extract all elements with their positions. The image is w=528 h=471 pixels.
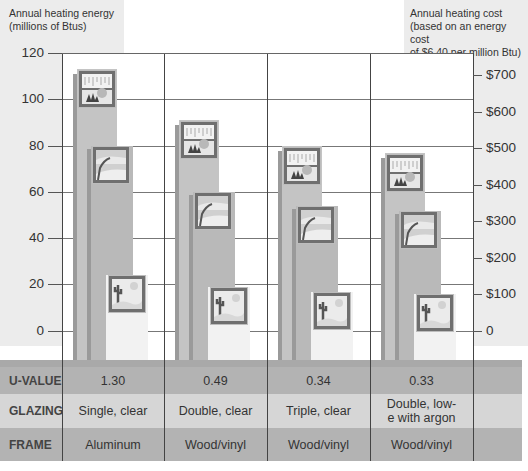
right-tick-label: $500 bbox=[486, 140, 516, 155]
right-tick-label: $400 bbox=[486, 177, 516, 192]
right-tick-mark bbox=[473, 294, 482, 295]
left-axis-title-line2: (millions of Btus) bbox=[9, 20, 114, 33]
table-cell: Double, low-e with argon bbox=[370, 394, 473, 428]
table-row-glazing: GLAZING Single, clear Double, clear Trip… bbox=[0, 394, 522, 428]
snow-window-icon bbox=[79, 71, 115, 107]
right-tick-label: $600 bbox=[486, 104, 516, 119]
right-tick-mark bbox=[473, 221, 482, 222]
table-cell: 0.34 bbox=[267, 367, 370, 394]
table-cell: Double, clear bbox=[164, 394, 267, 428]
table-cell: 0.49 bbox=[164, 367, 267, 394]
right-tick-label: $100 bbox=[486, 286, 516, 301]
snow-window-icon bbox=[284, 148, 320, 184]
left-tick-label: 40 bbox=[4, 230, 44, 245]
cactus-window-icon bbox=[417, 295, 453, 331]
table-cell: Triple, clear bbox=[267, 394, 370, 428]
left-tick-label: 80 bbox=[4, 138, 44, 153]
tree-window-icon bbox=[298, 207, 334, 243]
left-tick-label: 120 bbox=[4, 45, 44, 60]
cactus-window-icon bbox=[109, 276, 145, 312]
left-axis-title-line1: Annual heating energy bbox=[9, 7, 114, 20]
table-cell: 0.33 bbox=[370, 367, 473, 394]
row-header-frame: FRAME bbox=[0, 428, 62, 461]
left-tick-mark bbox=[48, 284, 62, 285]
row-header-u-value: U-VALUE bbox=[0, 367, 62, 394]
plot-top-border bbox=[62, 53, 473, 54]
right-axis-title: Annual heating cost (based on an energy … bbox=[410, 7, 528, 59]
right-axis-title-line1: Annual heating cost bbox=[410, 7, 528, 20]
left-tick-mark bbox=[48, 146, 62, 147]
right-tick-mark bbox=[473, 148, 482, 149]
left-tick-label: 0 bbox=[4, 323, 44, 338]
table-divider bbox=[370, 360, 371, 461]
table-cell: 1.30 bbox=[62, 367, 164, 394]
table-divider bbox=[164, 360, 165, 461]
left-axis-title: Annual heating energy (millions of Btus) bbox=[9, 7, 114, 33]
cactus-window-icon bbox=[314, 293, 350, 329]
left-tick-mark bbox=[48, 331, 62, 332]
left-tick-label: 20 bbox=[4, 276, 44, 291]
tree-window-icon bbox=[195, 193, 231, 229]
left-tick-mark bbox=[48, 192, 62, 193]
row-header-glazing: GLAZING bbox=[0, 394, 62, 428]
snow-window-icon bbox=[181, 122, 217, 158]
right-tick-mark bbox=[473, 112, 482, 113]
table-divider bbox=[62, 360, 63, 461]
right-tick-label: $300 bbox=[486, 213, 516, 228]
left-tick-label: 60 bbox=[4, 184, 44, 199]
snow-window-icon bbox=[387, 155, 423, 191]
table-top-strip bbox=[0, 360, 522, 367]
left-tick-label: 100 bbox=[4, 91, 44, 106]
table-cell: Aluminum bbox=[62, 428, 164, 461]
tree-window-icon bbox=[401, 212, 437, 248]
left-tick-mark bbox=[48, 53, 62, 54]
right-tick-label: $700 bbox=[486, 67, 516, 82]
right-tick-mark bbox=[473, 75, 482, 76]
left-tick-mark bbox=[48, 99, 62, 100]
tree-window-icon bbox=[93, 147, 129, 183]
right-axis-title-line2: (based on an energy cost bbox=[410, 20, 528, 46]
table-divider bbox=[473, 360, 474, 461]
right-tick-mark bbox=[473, 331, 482, 332]
left-tick-mark bbox=[48, 238, 62, 239]
table-cell: Wood/vinyl bbox=[267, 428, 370, 461]
right-tick-label: 0 bbox=[486, 323, 494, 338]
right-tick-mark bbox=[473, 185, 482, 186]
right-tick-label: $200 bbox=[486, 250, 516, 265]
right-axis-panel bbox=[472, 55, 528, 346]
right-tick-mark bbox=[473, 258, 482, 259]
table-row-frame: FRAME Aluminum Wood/vinyl Wood/vinyl Woo… bbox=[0, 428, 522, 461]
table-cell: Wood/vinyl bbox=[164, 428, 267, 461]
table-cell: Single, clear bbox=[62, 394, 164, 428]
table-cell: Wood/vinyl bbox=[370, 428, 473, 461]
table-row-u-value: U-VALUE 1.30 0.49 0.34 0.33 bbox=[0, 367, 522, 394]
cactus-window-icon bbox=[211, 288, 247, 324]
table-divider bbox=[267, 360, 268, 461]
